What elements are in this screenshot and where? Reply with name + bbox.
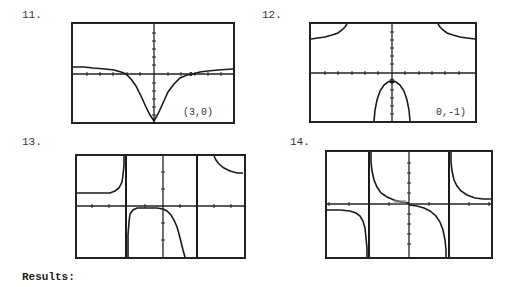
graph-11-coordinate-label: (3,0) [183, 107, 213, 118]
results-heading: Results: [22, 271, 75, 283]
graph-13 [76, 155, 245, 258]
graph-12-coordinate-label: 0,-1) [436, 107, 466, 118]
graph-11: (3,0) [72, 23, 234, 123]
graph-14 [326, 151, 492, 258]
graph-12: 0,-1) [310, 23, 476, 122]
graphs-canvas: (3,0) 0,-1) [0, 0, 512, 287]
graph-14-trace-marker [394, 200, 406, 204]
